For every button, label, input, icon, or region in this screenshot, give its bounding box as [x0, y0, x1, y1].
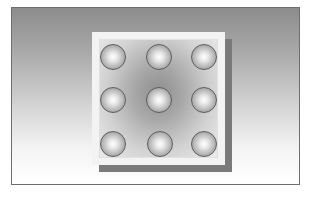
sphere-r3-c2: [147, 131, 173, 157]
sphere-r1-c3: [191, 44, 217, 70]
sphere-r2-c3: [191, 87, 217, 113]
sphere-r2-c2: [146, 87, 172, 113]
sphere-r1-c2: [146, 44, 172, 70]
sphere-r3-c3: [191, 131, 217, 157]
sphere-r1-c1: [100, 44, 126, 70]
sphere-r2-c1: [100, 87, 126, 113]
sphere-r3-c1: [100, 131, 126, 157]
